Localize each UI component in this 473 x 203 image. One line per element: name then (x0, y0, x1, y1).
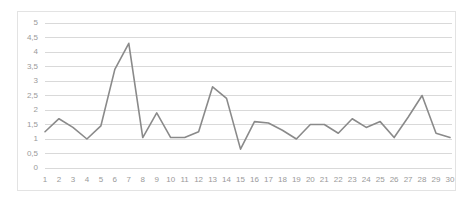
y-axis-tick-label: 4,5 (16, 34, 38, 42)
y-axis-tick-label: 0,5 (16, 150, 38, 158)
y-axis-tick-label: 2,5 (16, 92, 38, 100)
gridlines (45, 23, 452, 168)
y-axis-tick-label: 0 (16, 164, 38, 172)
y-axis-tick-label: 3,5 (16, 63, 38, 71)
line-chart-svg (0, 0, 473, 203)
series-polyline (45, 43, 450, 149)
y-axis-tick-label: 1 (16, 135, 38, 143)
data-series-line (45, 43, 450, 149)
x-axis-tick-label: 30 (441, 176, 459, 184)
y-axis-tick-label: 5 (16, 19, 38, 27)
y-axis-tick-label: 1,5 (16, 121, 38, 129)
y-axis-tick-label: 4 (16, 48, 38, 56)
chart-container: 00,511,522,533,544,55 123456789101112131… (0, 0, 473, 203)
y-axis-tick-label: 3 (16, 77, 38, 85)
y-axis-tick-label: 2 (16, 106, 38, 114)
